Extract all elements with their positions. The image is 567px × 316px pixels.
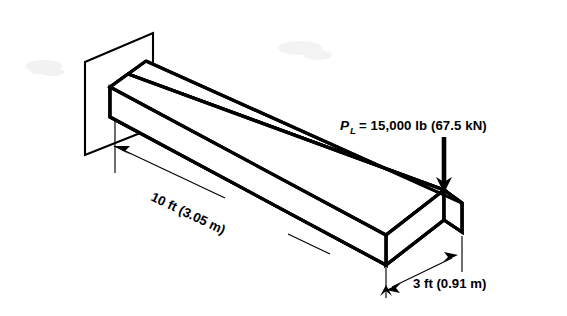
width-dimension-label: 3 ft (0.91 m) xyxy=(413,276,486,291)
width-dim-arrowhead-right xyxy=(443,252,458,262)
length-dimension-label: 10 ft (3.05 m) xyxy=(149,189,228,237)
point-load-arrow xyxy=(436,137,452,193)
load-symbol-P: P xyxy=(340,118,350,133)
length-dim-arrowhead xyxy=(113,146,131,155)
cantilever-beam xyxy=(110,61,462,265)
scan-artifact-smudge xyxy=(26,60,64,76)
scan-artifact-smudge-right xyxy=(278,41,332,60)
figure-root: P L = 15,000 lb (67.5 kN) 10 ft (3.05 m) xyxy=(0,0,567,316)
load-subscript-L: L xyxy=(350,125,356,136)
load-label: P L = 15,000 lb (67.5 kN) xyxy=(340,118,487,136)
beam-diagram-svg: P L = 15,000 lb (67.5 kN) 10 ft (3.05 m) xyxy=(0,0,567,316)
load-equation-text: = 15,000 lb (67.5 kN) xyxy=(359,118,487,133)
